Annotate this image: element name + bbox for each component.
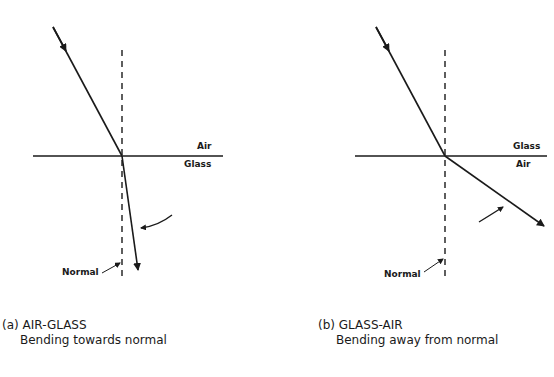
caption-title-b: (b) GLASS-AIR: [318, 318, 403, 332]
normal-pointer-a: [102, 263, 120, 273]
panel-b: [355, 27, 547, 278]
caption-a: (a) AIR-GLASS Bending towards normal: [2, 318, 167, 348]
incident-arrow-a: [53, 27, 66, 51]
upper-medium-label-a: Air: [197, 142, 212, 151]
bend-arrow-b: [479, 207, 503, 222]
refracted-ray-a: [122, 156, 138, 270]
upper-medium-label-b: Glass: [513, 142, 540, 151]
caption-title-a: (a) AIR-GLASS: [2, 318, 87, 332]
caption-b: (b) GLASS-AIR Bending away from normal: [318, 318, 498, 348]
incident-arrow-b: [376, 27, 389, 51]
normal-pointer-b: [424, 259, 443, 272]
bend-arrow-a: [141, 215, 172, 228]
caption-subtitle-b: Bending away from normal: [318, 333, 498, 348]
normal-label-a: Normal: [62, 268, 99, 277]
panel-a: [33, 27, 223, 278]
caption-subtitle-a: Bending towards normal: [2, 333, 167, 348]
normal-label-b: Normal: [384, 270, 421, 279]
lower-medium-label-b: Air: [516, 160, 531, 169]
lower-medium-label-a: Glass: [184, 160, 211, 169]
